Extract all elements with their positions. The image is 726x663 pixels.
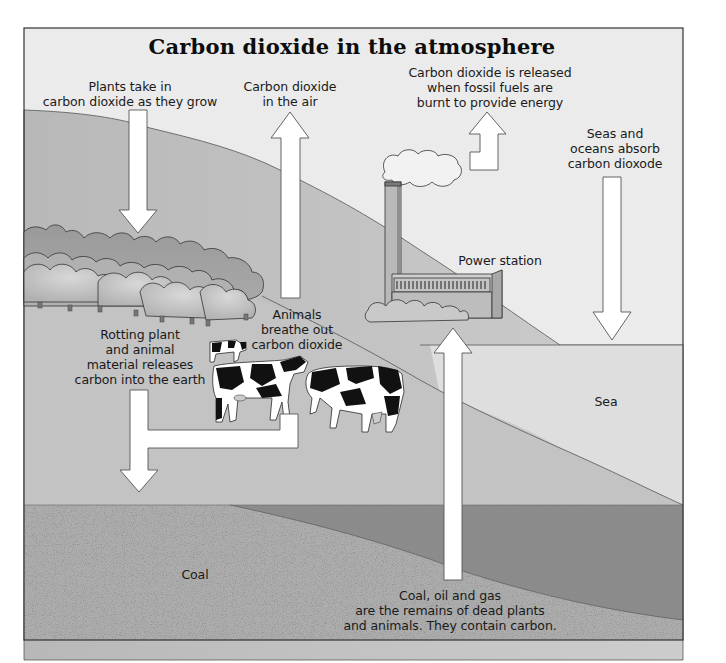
label-animals-breathe: Animals breathe out carbon dioxide (242, 307, 352, 352)
label-sea: Sea (586, 394, 626, 409)
label-power-station: Power station (445, 253, 555, 268)
smoke-cloud (383, 150, 462, 187)
label-fossil-fuels-release: Carbon dioxide is released when fossil f… (395, 65, 585, 110)
label-coal: Coal (170, 567, 220, 582)
label-co2-in-air: Carbon dioxide in the air (235, 79, 345, 109)
label-seas-absorb: Seas and oceans absorb carbon dioxode (560, 126, 670, 171)
label-rotting-material: Rotting plant and animal material releas… (66, 327, 214, 387)
label-fossil-fuels-origin: Coal, oil and gas are the remains of dea… (340, 588, 560, 633)
label-plants-take-in: Plants take in carbon dioxide as they gr… (30, 79, 230, 109)
diagram-title: Carbon dioxide in the atmosphere (24, 34, 680, 59)
carbon-cycle-diagram: Carbon dioxide in the atmosphere Plants … (0, 0, 726, 663)
